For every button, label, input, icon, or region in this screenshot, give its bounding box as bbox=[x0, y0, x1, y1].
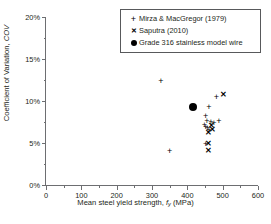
x-axis-tick bbox=[81, 186, 82, 190]
legend-item-label: Grade 316 stainless model wire bbox=[139, 39, 243, 46]
y-axis-title: Coefficient of Variation, COV bbox=[2, 0, 11, 185]
data-point-marker bbox=[214, 92, 219, 101]
x-axis-minor-tick bbox=[240, 186, 241, 188]
x-axis-tick-label: 400 bbox=[181, 191, 193, 200]
x-axis-minor-tick bbox=[134, 186, 135, 188]
x-axis-minor-tick bbox=[170, 186, 171, 188]
x-axis-tick bbox=[258, 186, 259, 190]
cross-marker-icon: ✕ bbox=[128, 27, 139, 34]
legend-item-saputra: ✕ Saputra (2010) bbox=[121, 25, 260, 37]
y-axis-tick bbox=[42, 101, 46, 102]
x-axis-tick-label: 0 bbox=[44, 191, 48, 200]
legend-item-label: Mirza & MacGregor (1979) bbox=[139, 15, 226, 22]
data-point-marker bbox=[216, 117, 221, 126]
data-point-marker bbox=[189, 103, 197, 111]
data-point-marker bbox=[220, 91, 227, 99]
x-axis-tick-label: 500 bbox=[216, 191, 228, 200]
y-axis-tick-label: 15% bbox=[25, 55, 40, 64]
y-axis-tick-label: 10% bbox=[25, 97, 40, 106]
x-axis-minor-tick bbox=[205, 186, 206, 188]
data-point-marker bbox=[205, 129, 212, 137]
y-axis-minor-tick bbox=[44, 38, 46, 39]
y-axis-tick bbox=[42, 143, 46, 144]
y-axis-tick bbox=[42, 59, 46, 60]
legend-item-grade-316-wire: Grade 316 stainless model wire bbox=[121, 37, 260, 49]
legend-item-label: Saputra (2010) bbox=[139, 27, 188, 34]
data-point-marker bbox=[158, 76, 163, 85]
x-axis-tick-label: 300 bbox=[146, 191, 158, 200]
scatter-chart-figure: Mean steel yield strength, fy (MPa) Coef… bbox=[0, 0, 271, 224]
y-axis-minor-tick bbox=[44, 80, 46, 81]
x-axis-tick bbox=[223, 186, 224, 190]
y-axis-title-symbol: COV bbox=[2, 25, 11, 41]
x-axis-tick bbox=[152, 186, 153, 190]
y-axis-minor-tick bbox=[44, 164, 46, 165]
y-axis-minor-tick bbox=[44, 122, 46, 123]
x-axis-tick-label: 200 bbox=[110, 191, 122, 200]
y-axis-tick-label: 0% bbox=[29, 181, 40, 190]
y-axis-tick-label: 20% bbox=[25, 13, 40, 22]
filled-circle-marker-icon bbox=[128, 39, 139, 48]
y-axis-tick bbox=[42, 17, 46, 18]
x-axis-tick bbox=[46, 186, 47, 190]
plus-marker-icon: + bbox=[128, 15, 139, 24]
data-point-marker bbox=[205, 148, 212, 156]
y-axis-title-pre: Coefficient of Variation, bbox=[2, 41, 11, 121]
x-axis-tick-label: 600 bbox=[252, 191, 264, 200]
x-axis-minor-tick bbox=[99, 186, 100, 188]
legend-item-mirza-macgregor: + Mirza & MacGregor (1979) bbox=[121, 13, 260, 25]
x-axis-tick bbox=[117, 186, 118, 190]
chart-legend: + Mirza & MacGregor (1979) ✕ Saputra (20… bbox=[120, 9, 261, 53]
x-axis-tick bbox=[187, 186, 188, 190]
data-point-marker bbox=[206, 102, 211, 111]
x-axis-title: Mean steel yield strength, fy (MPa) bbox=[0, 198, 271, 207]
y-axis-tick-label: 5% bbox=[29, 139, 40, 148]
x-axis-tick-label: 100 bbox=[75, 191, 87, 200]
data-point-marker bbox=[167, 146, 172, 155]
x-axis-minor-tick bbox=[64, 186, 65, 188]
